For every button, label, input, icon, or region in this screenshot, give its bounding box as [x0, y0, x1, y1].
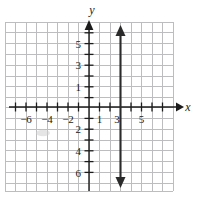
x-tick-label-neg6: −6 — [20, 113, 32, 125]
x-tick-label-5: 5 — [139, 113, 145, 125]
y-axis-label: y — [88, 3, 95, 17]
paper-smudge-artifact — [36, 130, 50, 136]
line-arrowhead-bottom — [116, 177, 126, 188]
y-tick-label-1: 1 — [76, 81, 82, 93]
y-tick-label-5: 5 — [76, 38, 82, 50]
x-tick-label-neg4: −4 — [41, 113, 53, 125]
y-tick-label-3: 3 — [76, 59, 82, 71]
coordinate-plane-figure: y x −6 −4 −2 1 3 5 5 3 1 2 4 6 — [0, 0, 198, 205]
axes — [9, 27, 176, 191]
line-arrowhead-top — [116, 25, 126, 36]
y-tick-label-neg2: 2 — [76, 123, 82, 135]
y-tick-label-neg6: 6 — [76, 167, 82, 179]
x-tick-label-neg2: −2 — [62, 113, 74, 125]
graph-canvas: y x −6 −4 −2 1 3 5 5 3 1 2 4 6 — [0, 0, 198, 205]
x-tick-label-3: 3 — [114, 113, 120, 125]
x-tick-label-1: 1 — [97, 113, 103, 125]
y-tick-label-neg4: 4 — [76, 145, 82, 157]
x-axis-arrowhead — [176, 103, 184, 112]
x-axis-label: x — [184, 100, 191, 114]
